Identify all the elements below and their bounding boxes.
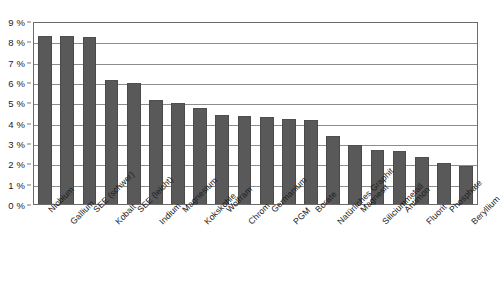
x-axis-label-slot: Siliciummetall <box>367 206 389 287</box>
bar-slot <box>78 23 100 204</box>
bar-slot <box>344 23 366 204</box>
y-axis-tick-mark <box>27 103 31 104</box>
y-axis-tick-label: 9 % <box>8 17 25 28</box>
bar <box>437 163 451 204</box>
x-axis-label-slot: Wolfram <box>211 206 233 287</box>
y-axis-tick-mark <box>27 123 31 124</box>
x-axis-label-slot: Kokskohle <box>189 206 211 287</box>
x-axis-label-slot: Borate <box>300 206 322 287</box>
bar-slot <box>256 23 278 204</box>
y-axis-tick-mark <box>27 184 31 185</box>
x-axis-label-slot: SEE (schwer) <box>78 206 100 287</box>
y-axis-tick-mark <box>27 83 31 84</box>
y-axis-tick-label: 0 % <box>8 200 25 211</box>
x-axis-label-slot: Niobium <box>33 206 55 287</box>
x-axis-label-slot: SEE (leicht) <box>122 206 144 287</box>
y-axis-tick-label: 7 % <box>8 57 25 68</box>
plot-area <box>33 22 478 205</box>
bar <box>60 36 74 204</box>
x-axis-label-slot: Germanium <box>256 206 278 287</box>
bar <box>38 36 52 204</box>
x-axis-label-slot: PGM <box>278 206 300 287</box>
y-axis-tick-mark <box>27 164 31 165</box>
x-axis-label-slot: Phosphate <box>434 206 456 287</box>
y-axis-tick-label: 5 % <box>8 98 25 109</box>
x-axis-label-slot: Fluorit <box>411 206 433 287</box>
x-axis-label-slot: Antimon <box>389 206 411 287</box>
x-axis-label-slot: Magnesium <box>167 206 189 287</box>
x-axis-label-slot: Chrom <box>233 206 255 287</box>
y-axis-tick-mark <box>27 22 31 23</box>
bar-slot <box>56 23 78 204</box>
bar <box>304 120 318 204</box>
y-axis-tick-label: 6 % <box>8 78 25 89</box>
bar <box>83 37 97 204</box>
y-axis-tick-label: 8 % <box>8 37 25 48</box>
bar-slot <box>433 23 455 204</box>
x-axis-label-slot: Gallium <box>55 206 77 287</box>
bar <box>260 117 274 204</box>
x-axis-label-slot: Beryllium <box>456 206 478 287</box>
y-axis-tick-mark <box>27 205 31 206</box>
bar-slot <box>34 23 56 204</box>
x-axis-label-slot: Magnesit <box>345 206 367 287</box>
bar-series <box>34 23 477 204</box>
x-axis-label-slot: Indium <box>144 206 166 287</box>
bar <box>171 103 185 204</box>
y-axis-tick-label: 4 % <box>8 118 25 129</box>
y-axis-tick-label: 2 % <box>8 159 25 170</box>
x-axis-label-slot: Natürliches Graphit <box>322 206 344 287</box>
bar-slot <box>189 23 211 204</box>
bar-slot <box>278 23 300 204</box>
bar <box>127 83 141 204</box>
bar <box>215 115 229 204</box>
bar-slot <box>322 23 344 204</box>
bar-slot <box>389 23 411 204</box>
y-axis-tick-label: 1 % <box>8 179 25 190</box>
y-axis-tick-mark <box>27 62 31 63</box>
y-axis-tick-mark <box>27 144 31 145</box>
y-axis-tick-label: 3 % <box>8 139 25 150</box>
x-axis-label-slot: Kobalt <box>100 206 122 287</box>
x-axis-labels: NiobiumGalliumSEE (schwer)KobaltSEE (lei… <box>33 206 478 287</box>
y-axis: 9 %8 %7 %6 %5 %4 %3 %2 %1 %0 % <box>0 22 31 205</box>
bar-slot <box>455 23 477 204</box>
bar-slot <box>233 23 255 204</box>
y-axis-tick-mark <box>27 42 31 43</box>
bar-slot <box>411 23 433 204</box>
bar-slot <box>100 23 122 204</box>
